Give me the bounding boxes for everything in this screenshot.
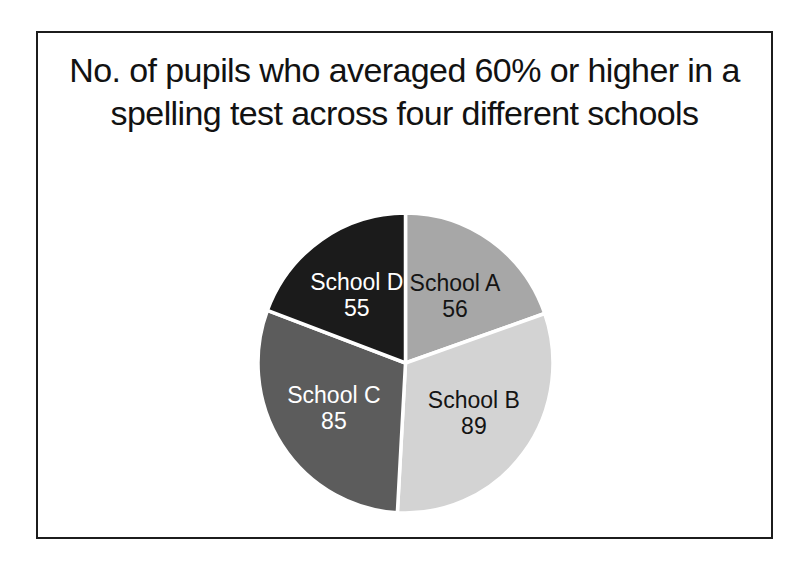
scanned-page: No. of pupils who averaged 60% or higher… <box>0 0 811 572</box>
pie-chart <box>0 0 811 572</box>
